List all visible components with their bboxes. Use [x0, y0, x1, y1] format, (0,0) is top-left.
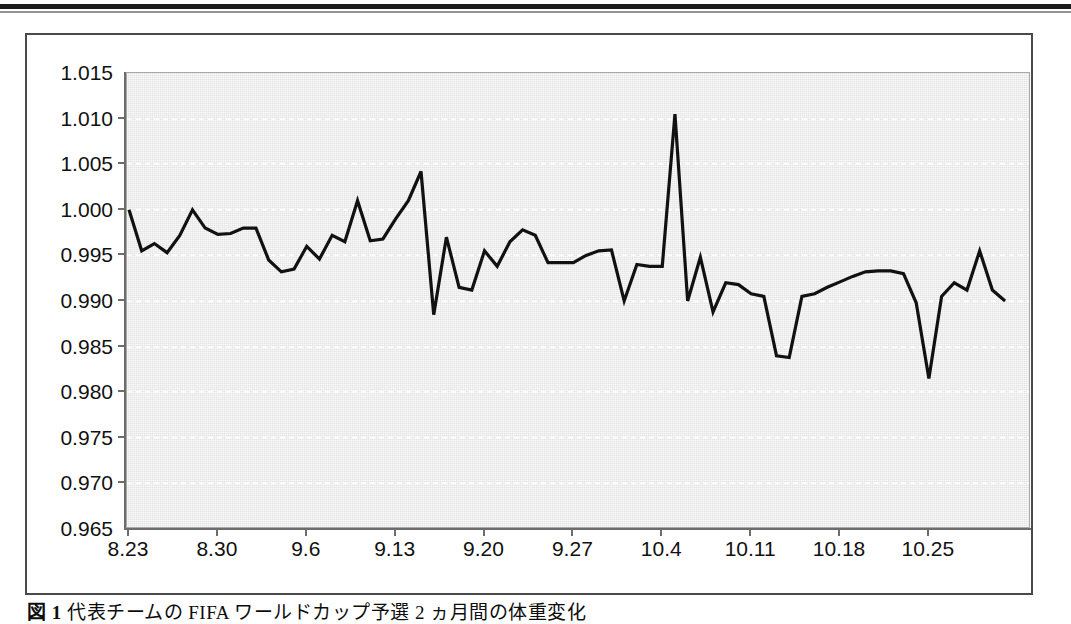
y-axis-label: 0.990	[27, 290, 113, 311]
y-axis-tick	[118, 162, 126, 164]
page-top-rule	[0, 4, 1071, 9]
x-axis-tick	[838, 528, 840, 536]
y-axis-tick	[118, 345, 126, 347]
y-axis-tick	[118, 253, 126, 255]
series-line	[127, 73, 1030, 528]
y-axis-tick	[118, 299, 126, 301]
y-axis-tick	[118, 117, 126, 119]
y-axis-label: 1.005	[27, 153, 113, 174]
x-axis-tick	[483, 528, 485, 536]
x-axis-tick	[749, 528, 751, 536]
x-axis-tick	[127, 528, 129, 536]
y-axis-label: 0.970	[27, 472, 113, 493]
x-axis-tick	[927, 528, 929, 536]
y-axis-label: 0.985	[27, 336, 113, 357]
x-axis	[124, 528, 1031, 530]
x-axis-tick	[571, 528, 573, 536]
x-axis-tick	[305, 528, 307, 536]
y-axis-label: 0.980	[27, 381, 113, 402]
y-axis-tick	[118, 481, 126, 483]
y-axis-tick	[118, 390, 126, 392]
data-line	[129, 114, 1005, 378]
figure-caption-number: 図 1	[27, 602, 62, 623]
figure-caption: 図 1 代表チームの FIFA ワールドカップ予選 2 ヵ月間の体重変化	[27, 597, 586, 624]
x-axis-tick	[216, 528, 218, 536]
plot-area	[126, 72, 1030, 528]
x-axis-tick	[660, 528, 662, 536]
x-axis-tick	[394, 528, 396, 536]
y-axis-label: 1.010	[27, 108, 113, 129]
y-axis-label: 1.000	[27, 199, 113, 220]
y-axis-label: 1.015	[27, 62, 113, 83]
figure-caption-text: 代表チームの FIFA ワールドカップ予選 2 ヵ月間の体重変化	[67, 602, 586, 623]
y-axis-label: 0.975	[27, 427, 113, 448]
page-top-rule-secondary	[0, 11, 1071, 13]
y-axis-tick	[118, 208, 126, 210]
y-axis-tick	[118, 436, 126, 438]
y-axis-label: 0.995	[27, 244, 113, 265]
x-axis-label: 10.25	[868, 536, 988, 562]
line-chart: 0.9650.9700.9750.9800.9850.9900.9951.000…	[25, 33, 1033, 595]
